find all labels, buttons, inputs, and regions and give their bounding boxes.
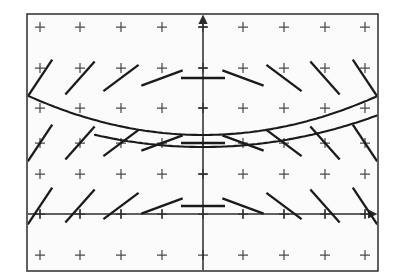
figure-canvas <box>0 0 399 277</box>
slope-field-figure <box>0 0 399 277</box>
